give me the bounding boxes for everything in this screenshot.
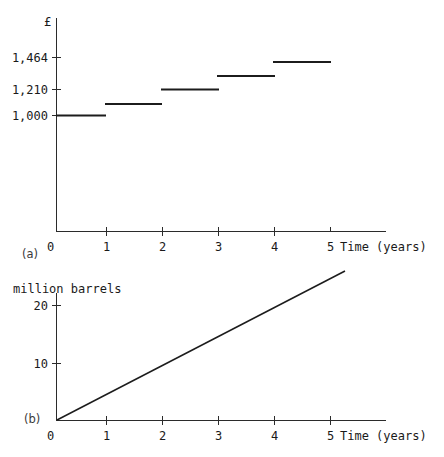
chart-a-xlabel-5: 5 <box>327 240 334 254</box>
chart-a-ylabel-1464: 1,464 <box>12 51 48 65</box>
panel-label-b: (b) <box>24 412 40 426</box>
chart-b-xlabel-4: 4 <box>271 429 278 443</box>
figure-container: £ 1,464 1,210 1,000 0 1 2 3 4 5 Time (ye… <box>0 0 444 457</box>
chart-b-group: million barrels 20 10 0 1 2 3 4 5 Time (… <box>13 271 427 443</box>
chart-b-ylabel-20: 20 <box>34 299 48 313</box>
chart-a-ylabel-1000: 1,000 <box>12 109 48 123</box>
chart-b-xlabel-0: 0 <box>47 429 54 443</box>
chart-a-xlabel-2: 2 <box>159 240 166 254</box>
chart-a-ylabel-1210: 1,210 <box>12 83 48 97</box>
charts-svg: £ 1,464 1,210 1,000 0 1 2 3 4 5 Time (ye… <box>0 0 444 457</box>
chart-b-xlabel-2: 2 <box>159 429 166 443</box>
chart-a-group: £ 1,464 1,210 1,000 0 1 2 3 4 5 Time (ye… <box>12 15 427 254</box>
chart-a-xlabel-1: 1 <box>103 240 110 254</box>
chart-a-x-axis-title: Time (years) <box>340 240 427 254</box>
chart-a-y-axis-symbol: £ <box>44 15 51 29</box>
chart-b-xlabel-5: 5 <box>327 429 334 443</box>
chart-b-y-axis-title: million barrels <box>13 282 121 296</box>
chart-b-xlabel-1: 1 <box>103 429 110 443</box>
panel-label-a: (a) <box>22 247 38 261</box>
chart-b-x-axis-title: Time (years) <box>340 429 427 443</box>
chart-b-xlabel-3: 3 <box>215 429 222 443</box>
chart-b-ylabel-10: 10 <box>34 357 48 371</box>
chart-a-xlabel-4: 4 <box>271 240 278 254</box>
chart-a-xlabel-0: 0 <box>47 240 54 254</box>
chart-a-xlabel-3: 3 <box>215 240 222 254</box>
